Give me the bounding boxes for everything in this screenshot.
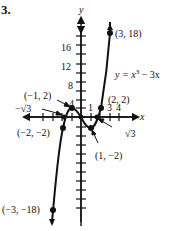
point-label-neg1-2: (−1, 2) [24,90,51,102]
root-label-sqrt3: √3 [125,128,136,139]
x-axis: x 1 3 4 [26,102,145,122]
y-tick-12: 12 [61,61,71,72]
x-tick-1: 1 [88,102,93,113]
x-axis-label: x [139,111,145,122]
y-tick-8: 8 [68,80,73,91]
point-label-3-18: (3, 18) [115,28,142,40]
curve-arrow-down [49,219,55,226]
point-label-2-2: (2, 2) [108,94,130,106]
root-label-neg-sqrt3: −√3 [15,103,31,114]
point-label-1-neg2: (1, −2) [95,150,122,162]
point-label-neg3-neg18: (−3, −18) [2,204,40,216]
function-graph: y 16 12 8 4 x 1 3 4 [0,0,170,231]
y-axis-label: y [78,4,84,15]
equation-label: y = x3 − 3x [114,68,160,80]
point-label-neg2-neg2: (−2, −2) [17,127,50,139]
y-tick-16: 16 [61,42,71,53]
curve-arrow-up [107,24,113,30]
